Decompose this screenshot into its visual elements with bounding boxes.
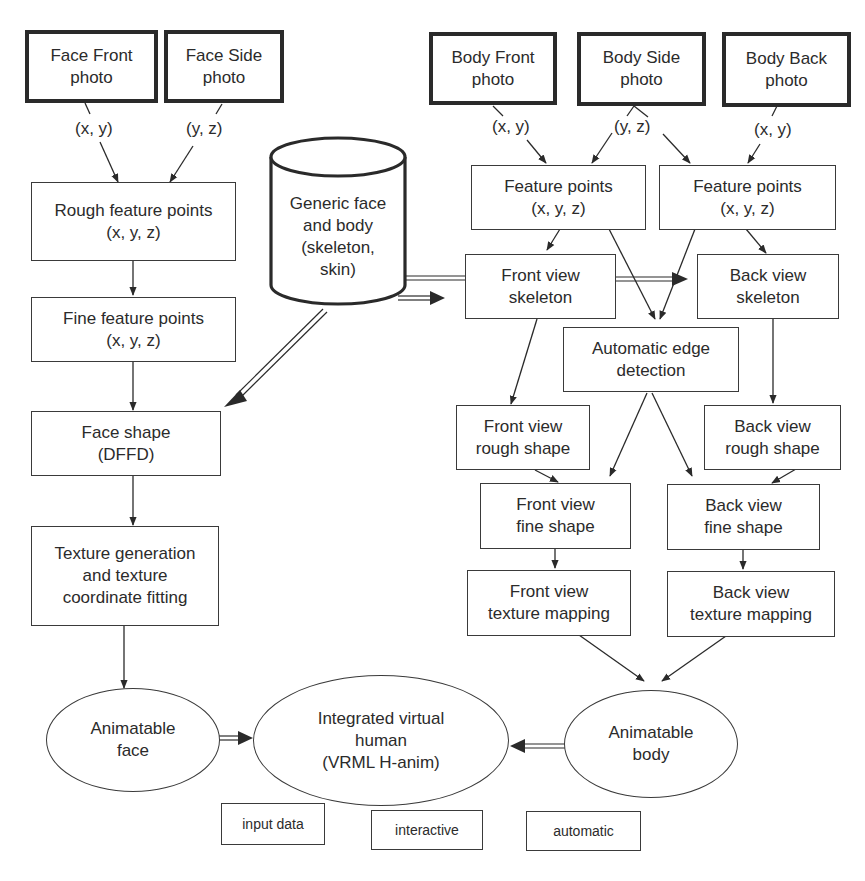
front-view-rough-shape: Front view rough shape [456,405,590,470]
edge-backfp-edge [660,229,695,319]
edge-frontskel-frontrough [511,319,537,404]
edge-bodyfront-fp [527,140,546,163]
front-feature-points: Feature points (x, y, z) [471,165,646,230]
back-view-fine-shape: Back view fine shape [667,484,820,550]
edge-bodyside-stubL [627,106,634,116]
back-view-skeleton: Back view skeleton [697,254,839,319]
back-feature-points: Feature points (x, y, z) [659,165,836,230]
legend-automatic: automatic [526,811,641,851]
body-back-photo: Body Back photo [722,32,851,107]
edge-bodyfront-stub [493,106,503,116]
edge-bodyside-backfp [663,134,690,163]
fine-feature-points: Fine feature points (x, y, z) [31,297,236,362]
edge-label-face-front-xy: (x, y) [75,119,113,139]
edge-bodyside-frontfp [592,133,612,163]
automatic-edge-detection: Automatic edge detection [563,327,739,392]
dbl-db-faceshape-a [236,309,323,395]
edge-faceside-stub [216,104,222,114]
edge-bodyback-stub [772,106,777,116]
edge-facefront-stub [85,103,90,114]
integrated-virtual-human: Integrated virtual human (VRML H-anim) [253,675,509,806]
back-view-rough-shape: Back view rough shape [704,405,841,470]
diagram-canvas: Face Front photo Face Side photo Body Fr… [0,0,865,881]
animatable-body: Animatable body [564,690,738,798]
edge-bodyside-stubR [634,106,648,117]
edge-backrough-backfine [772,469,796,483]
animatable-face: Animatable face [46,688,220,792]
arrowhead-skel-right [672,272,688,286]
edge-facefront-rough [100,142,118,182]
edge-label-body-side-yz: (y, z) [614,117,651,137]
face-shape-dffd: Face shape (DFFD) [31,411,221,476]
arrowhead-body-integrated [510,739,525,753]
edge-label-body-front-xy: (x, y) [492,117,530,137]
rough-feature-points: Rough feature points (x, y, z) [31,182,236,261]
arrowhead-face-integrated [238,731,253,745]
face-side-photo: Face Side photo [164,30,284,103]
front-view-skeleton: Front view skeleton [465,254,616,319]
edge-backtex-animbody [662,636,726,681]
body-front-photo: Body Front photo [429,32,557,105]
edge-edge-backfine [652,393,692,476]
arrowhead-db-faceshape [224,390,247,407]
edge-backfp-backskel [746,229,766,253]
body-side-photo: Body Side photo [577,32,706,106]
front-view-texture-mapping: Front view texture mapping [467,570,631,636]
edge-fronttex-animbody [579,635,644,681]
edge-frontrough-frontfine [535,470,558,482]
legend-input-data: input data [221,803,325,845]
generic-face-body-database: Generic face and body (skeleton, skin) [271,182,405,292]
texture-generation: Texture generation and texture coordinat… [31,526,219,626]
edge-faceside-rough [170,146,193,182]
legend-interactive: interactive [371,810,483,850]
edge-label-face-side-yz: (y, z) [186,119,223,139]
edge-label-body-back-xy: (x, y) [754,120,792,140]
back-view-texture-mapping: Back view texture mapping [667,571,835,637]
front-view-fine-shape: Front view fine shape [480,483,631,549]
arrowhead-db-right [430,291,445,305]
face-front-photo: Face Front photo [25,30,158,103]
edge-bodyback-fp [748,144,760,163]
edge-edge-frontfine [610,393,647,476]
edge-frontfp-frontskel [547,229,560,250]
